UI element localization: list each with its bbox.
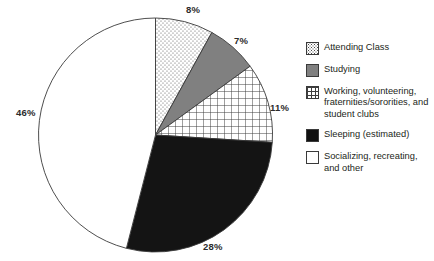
- legend-item-label: Studying: [324, 64, 360, 75]
- white-swatch-icon: [306, 151, 319, 164]
- pie-chart: 8% 7% 11% 28% 46% Attending Class Studyi…: [0, 0, 434, 261]
- legend-item-label: Attending Class: [324, 42, 389, 53]
- legend-item-label: Socializing, recreating, and other: [324, 151, 434, 174]
- gray-swatch-icon: [306, 64, 319, 77]
- slice-percent-label: 8%: [186, 5, 200, 15]
- legend-item-studying[interactable]: Studying: [306, 64, 434, 77]
- slice-percent-label: 7%: [234, 36, 248, 46]
- slice-percent-label: 28%: [203, 242, 223, 252]
- legend: Attending Class Studying Working, volunt…: [306, 42, 434, 183]
- legend-item-sleeping[interactable]: Sleeping (estimated): [306, 129, 434, 142]
- legend-item-socializing[interactable]: Socializing, recreating, and other: [306, 151, 434, 174]
- grid-swatch-icon: [306, 86, 319, 99]
- legend-item-label: Sleeping (estimated): [324, 129, 409, 140]
- slice-percent-label: 46%: [16, 108, 36, 118]
- legend-item-working[interactable]: Working, volunteering, fraternities/soro…: [306, 86, 434, 120]
- slice-percent-label: 11%: [270, 103, 289, 113]
- legend-item-attending-class[interactable]: Attending Class: [306, 42, 434, 55]
- black-swatch-icon: [306, 129, 319, 142]
- dots-swatch-icon: [306, 42, 319, 55]
- legend-item-label: Working, volunteering, fraternities/soro…: [324, 86, 434, 120]
